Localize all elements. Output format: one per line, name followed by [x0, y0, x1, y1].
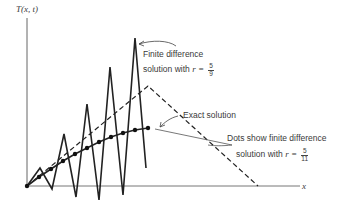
leader-exact	[160, 116, 178, 127]
stable-annotation-line1: Dots show finite difference	[227, 134, 327, 143]
stable-annotation-line2: solution with r = 511	[236, 148, 308, 162]
solution-dot	[37, 175, 41, 179]
stable-solution-dots	[25, 126, 150, 188]
exact-annotation: Exact solution	[183, 111, 236, 120]
leader-unstable	[139, 41, 176, 46]
solution-dot	[73, 152, 77, 156]
unstable-solution-line	[27, 38, 146, 200]
unstable-annotation-line1: Finite difference	[143, 50, 203, 59]
solution-dot	[109, 135, 113, 139]
solution-dot	[121, 131, 125, 135]
y-axis-label: T(x, t)	[16, 5, 38, 14]
unstable-annotation-text: solution with	[143, 64, 190, 74]
x-axis-label: x	[302, 182, 306, 191]
leader-stable-tail	[208, 145, 232, 146]
solution-dot	[146, 126, 150, 130]
stable-r-fraction: 511	[301, 148, 308, 162]
solution-dot	[97, 140, 101, 144]
solution-dot	[61, 159, 65, 163]
diagram-canvas	[0, 0, 349, 208]
solution-dot	[85, 146, 89, 150]
unstable-r-fraction: 59	[208, 63, 214, 77]
unstable-r-var: r =	[192, 64, 204, 74]
stable-r-var: r =	[285, 149, 297, 159]
solution-dot	[25, 184, 29, 188]
solution-dot	[49, 167, 53, 171]
unstable-annotation-line2: solution with r = 59	[143, 63, 214, 77]
solution-dot	[133, 128, 137, 132]
leader-stable	[155, 129, 232, 145]
stable-annotation-text: solution with	[236, 149, 283, 159]
